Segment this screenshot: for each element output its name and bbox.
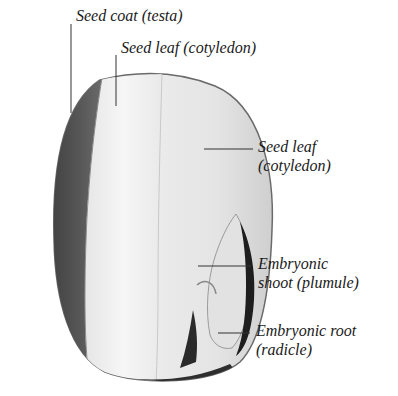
label-seed-leaf-right-line1: Seed leaf (258, 137, 331, 156)
label-seed-coat: Seed coat (testa) (76, 6, 183, 25)
label-seed-leaf-right-line2: (cotyledon) (258, 156, 331, 175)
label-seed-leaf-right: Seed leaf (cotyledon) (258, 137, 331, 175)
label-seed-leaf-top: Seed leaf (cotyledon) (121, 38, 256, 57)
label-embryonic-root: Embryonic root (radicle) (256, 321, 356, 359)
label-embryonic-shoot-line1: Embryonic (258, 254, 359, 273)
label-seed-coat-line1: Seed coat (testa) (76, 6, 183, 25)
left-cotyledon-region (85, 74, 162, 386)
label-embryonic-shoot-line2: shoot (plumule) (258, 273, 359, 292)
seed-body (40, 60, 272, 396)
label-embryonic-shoot: Embryonic shoot (plumule) (258, 254, 359, 292)
label-embryonic-root-line2: (radicle) (256, 340, 356, 359)
label-embryonic-root-line1: Embryonic root (256, 321, 356, 340)
label-seed-leaf-top-line1: Seed leaf (cotyledon) (121, 38, 256, 57)
